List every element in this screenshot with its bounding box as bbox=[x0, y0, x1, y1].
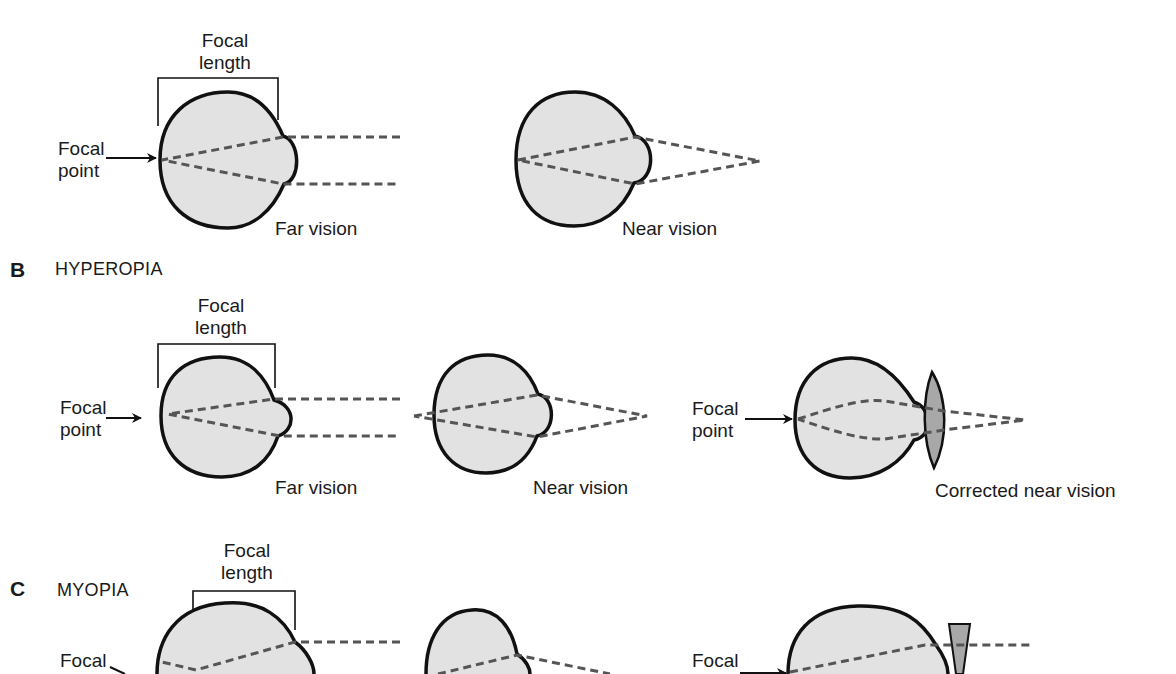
focal-point-label-line2: point bbox=[60, 419, 106, 441]
focal-length-label: Focal length bbox=[212, 540, 282, 584]
eyeball bbox=[161, 357, 291, 477]
caption-far-vision: Far vision bbox=[275, 477, 357, 499]
focal-point-label-line1: Focal bbox=[60, 397, 106, 419]
section-a-eye-near-vision bbox=[516, 92, 760, 226]
focal-length-label: Focal length bbox=[190, 30, 260, 74]
focal-point-label-line2: point bbox=[692, 420, 738, 442]
focal-point-label-line1: Focal bbox=[58, 138, 104, 160]
focal-point-arrow bbox=[110, 667, 125, 674]
section-letter-c: C bbox=[10, 577, 25, 601]
caption-far-vision: Far vision bbox=[275, 218, 357, 240]
section-a-eye-far-vision bbox=[106, 78, 400, 228]
eyeball bbox=[160, 92, 297, 228]
caption-corrected-near-vision: Corrected near vision bbox=[935, 480, 1116, 502]
focal-length-label-line1: Focal bbox=[186, 295, 256, 317]
section-b-eye-near-vision bbox=[414, 355, 647, 473]
focal-point-label: Focal point bbox=[58, 138, 104, 182]
eyeball bbox=[788, 606, 948, 674]
eyeball bbox=[516, 92, 651, 226]
focal-length-label-line2: length bbox=[190, 52, 260, 74]
focal-length-label-line2: length bbox=[186, 317, 256, 339]
section-c-eye-myopia-near bbox=[426, 610, 610, 674]
eye-refraction-diagram bbox=[0, 0, 1176, 674]
eyeball bbox=[795, 358, 928, 478]
focal-point-label: Focal point bbox=[60, 397, 106, 441]
section-b-eye-corrected-near-vision bbox=[745, 358, 1025, 478]
caption-near-vision: Near vision bbox=[622, 218, 717, 240]
focal-point-label-line1: Focal bbox=[692, 650, 738, 672]
focal-length-label: Focal length bbox=[186, 295, 256, 339]
focal-point-label: Focal bbox=[692, 650, 738, 672]
section-c-eye-corrected bbox=[740, 606, 1033, 674]
focal-point-label: Focal bbox=[60, 650, 106, 672]
converging-lens bbox=[925, 372, 945, 468]
eyeball bbox=[157, 603, 314, 674]
section-title-myopia: MYOPIA bbox=[57, 580, 129, 601]
diverging-lens bbox=[949, 624, 970, 674]
focal-length-label-line2: length bbox=[212, 562, 282, 584]
focal-point-label: Focal point bbox=[692, 398, 738, 442]
eyeball bbox=[434, 355, 551, 473]
focal-point-label-line1: Focal bbox=[692, 398, 738, 420]
focal-point-label-line2: point bbox=[58, 160, 104, 182]
focal-length-label-line1: Focal bbox=[190, 30, 260, 52]
section-letter-b: B bbox=[10, 258, 25, 282]
section-c-eye-myopia-far bbox=[110, 591, 400, 674]
focal-length-label-line1: Focal bbox=[212, 540, 282, 562]
section-title-hyperopia: HYPEROPIA bbox=[55, 259, 163, 280]
focal-point-label-line1: Focal bbox=[60, 650, 106, 672]
section-b-eye-far-vision bbox=[106, 344, 400, 477]
caption-near-vision: Near vision bbox=[533, 477, 628, 499]
